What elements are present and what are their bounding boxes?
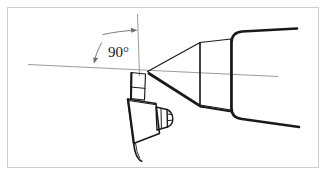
leader-upper-arrow-icon	[103, 30, 136, 34]
workpiece-cylinder	[200, 39, 231, 110]
tool-shank-band	[131, 87, 145, 88]
tool-shank-edge	[131, 73, 132, 99]
figure-root: 90°	[0, 0, 328, 177]
workpiece-cone	[148, 43, 201, 106]
construction-lines	[28, 14, 278, 77]
tool-body-left-edge	[128, 100, 134, 144]
leader-upper-arrowhead-icon	[131, 28, 138, 33]
tool-axis-line	[138, 14, 140, 76]
tool-connector-rib-3	[168, 114, 172, 115]
leader-lower-arrowhead-icon	[93, 58, 98, 64]
tool-shank	[131, 73, 146, 101]
chuck-jaws	[232, 29, 300, 128]
technical-drawing: 90°	[0, 0, 328, 177]
angle-label-90: 90°	[108, 44, 129, 60]
tool-tail	[134, 143, 142, 161]
